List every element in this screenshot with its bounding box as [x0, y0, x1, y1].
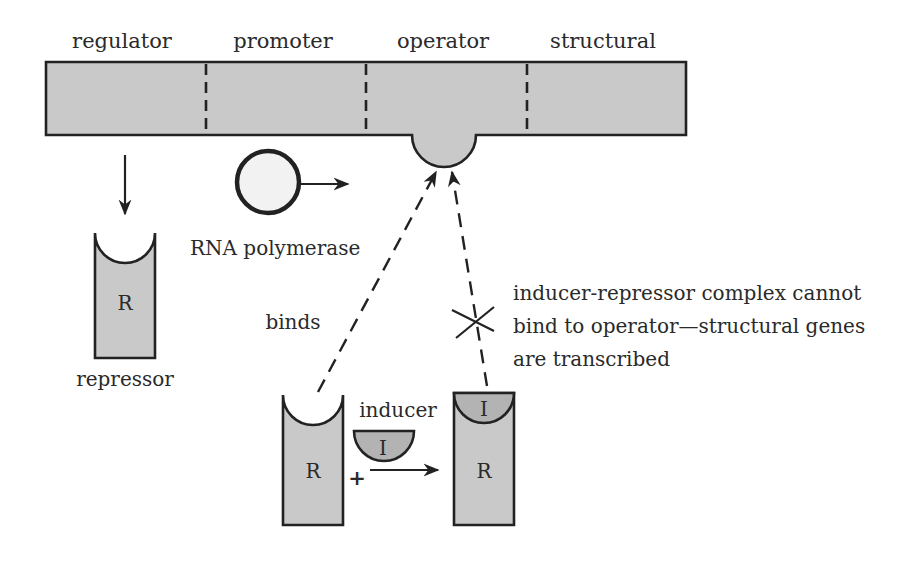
binds-label: binds	[265, 310, 320, 334]
repressor-label: repressor	[76, 367, 174, 391]
repressor-symbol: R	[117, 291, 133, 315]
blocked-note-line-2: bind to operator—structural genes	[513, 314, 865, 338]
rna-polymerase-icon	[237, 151, 299, 213]
complex-inducer-symbol: I	[480, 397, 488, 421]
reaction-repressor-symbol: R	[305, 459, 321, 483]
inducer-symbol: I	[379, 436, 387, 460]
label-operator: operator	[397, 29, 490, 53]
blocked-note-line-1: inducer-repressor complex cannot	[513, 281, 861, 305]
plus-sign: +	[348, 465, 366, 490]
dna-gene-bar	[46, 62, 686, 167]
inducer-label: inducer	[359, 398, 437, 422]
blocked-note-line-3: are transcribed	[513, 347, 670, 371]
operon-diagram: regulator promoter operator structural R…	[0, 0, 904, 567]
blocked-x-icon	[452, 307, 494, 338]
label-structural: structural	[550, 29, 656, 53]
binds-arrow-icon	[318, 172, 436, 392]
complex-repressor-symbol: R	[476, 459, 492, 483]
label-promoter: promoter	[233, 29, 334, 53]
rna-polymerase-label: RNA polymerase	[190, 236, 360, 260]
label-regulator: regulator	[72, 29, 173, 53]
blocked-arrow-icon	[452, 172, 487, 386]
